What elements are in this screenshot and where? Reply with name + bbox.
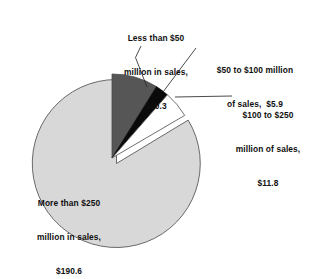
slice-label-more-than-250-million: More than $250 million in sales, $190.6 — [16, 176, 122, 279]
slice-label-line-2: million in sales, — [104, 67, 208, 78]
slice-label-value: $11.8 — [222, 178, 314, 189]
slice-label-line-1: More than $250 — [16, 198, 122, 209]
slice-label-100-to-250-million: $100 to $250 million of sales, $11.8 — [222, 88, 314, 211]
slice-label-value: $20.3 — [104, 101, 208, 112]
slice-label-line-1: Less than $50 — [104, 33, 208, 44]
slice-label-line-1: $50 to $100 million — [196, 65, 314, 76]
slice-label-line-2: million in sales, — [16, 232, 122, 243]
slice-label-line-2: million of sales, — [222, 144, 314, 155]
slice-label-less-than-50-million: Less than $50 million in sales, $20.3 — [104, 11, 208, 134]
slice-label-value: $190.6 — [16, 266, 122, 277]
slice-label-line-1: $100 to $250 — [222, 110, 314, 121]
